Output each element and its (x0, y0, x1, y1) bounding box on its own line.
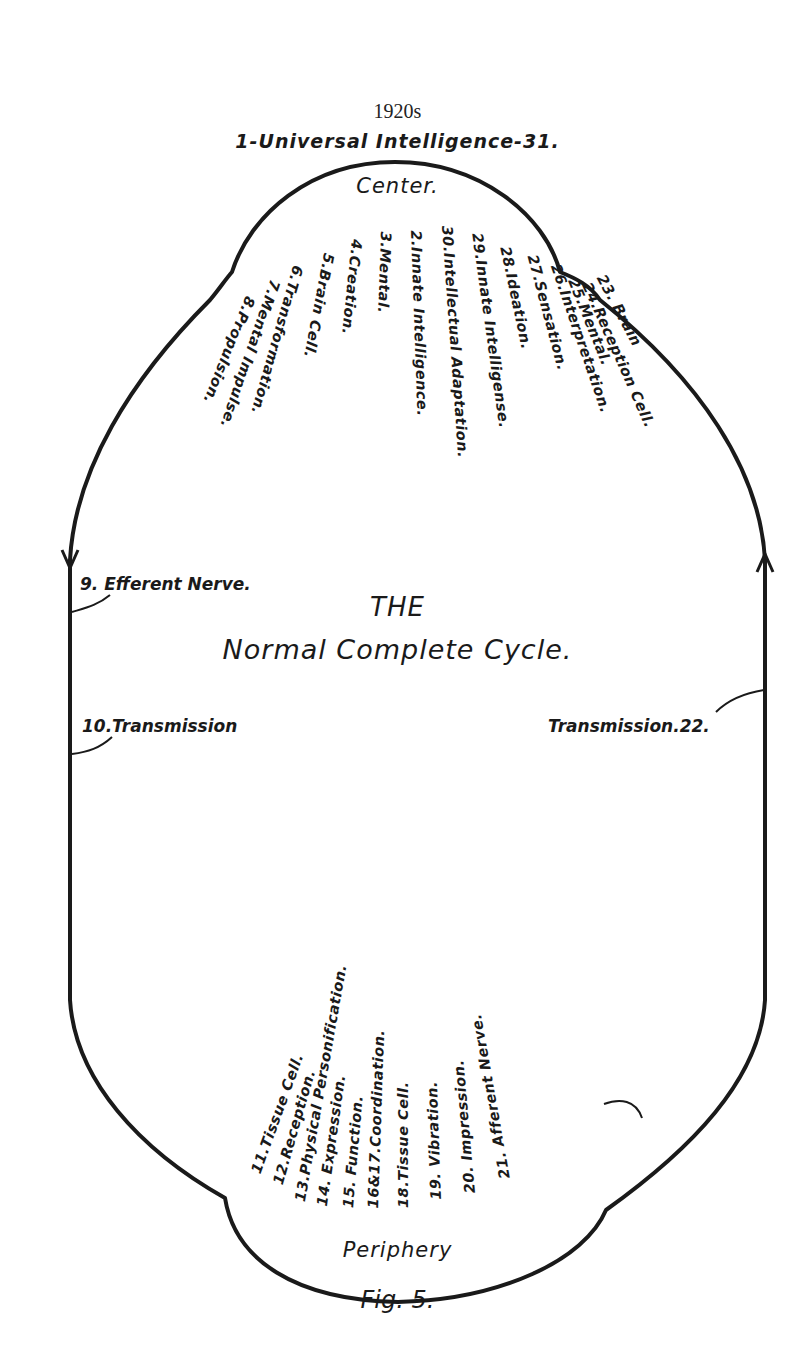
periphery-label: Periphery (0, 1238, 795, 1262)
efferent-nerve-label: 9. Efferent Nerve. (80, 574, 251, 594)
normal-complete-cycle-diagram: 1920s 1-Universal Intelligence-31. Cente… (0, 0, 795, 1371)
center-step-label: 3.Mental. (375, 231, 394, 313)
universal-intelligence-header: 1-Universal Intelligence-31. (0, 130, 795, 152)
title-normal-complete-cycle: Normal Complete Cycle. (0, 634, 795, 665)
title-the: THE (0, 592, 795, 622)
afferent-leader (604, 1101, 642, 1118)
periphery-step-label: 18.Tissue Cell. (395, 1082, 411, 1208)
year-caption: 1920s (0, 100, 795, 123)
transmission-left-label: 10.Transmission (82, 716, 237, 736)
center-label: Center. (0, 174, 795, 198)
figure-caption: Fig. 5. (0, 1286, 795, 1314)
transmission-right-label: Transmission.22. (548, 716, 710, 736)
transmission-right-leader (716, 690, 764, 712)
transmission-left-leader (72, 737, 112, 754)
